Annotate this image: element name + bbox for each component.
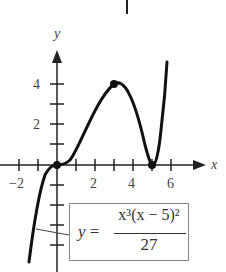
y-tick-label-4: 4 <box>33 77 40 92</box>
x-tick-label-neg2: −2 <box>9 176 24 191</box>
y-tick-label-2: 2 <box>33 117 40 132</box>
y-axis-label: y <box>52 26 61 41</box>
equation-box: y = x³(x − 5)² 27 <box>69 203 189 261</box>
point-local-min <box>148 161 156 169</box>
equation-lhs: y = <box>78 222 99 242</box>
x-tick-label-2: 2 <box>90 176 97 191</box>
equation-leader-line <box>36 229 69 235</box>
x-axis-label: x <box>210 157 218 172</box>
equation-denominator: 27 <box>110 235 188 255</box>
equation-equals: = <box>90 222 100 241</box>
equation-numerator: x³(x − 5)² <box>110 206 188 224</box>
y-axis-arrow-icon <box>52 50 62 63</box>
x-tick-label-4: 4 <box>128 176 135 191</box>
fraction-bar <box>114 233 186 234</box>
point-local-max <box>110 80 118 88</box>
x-axis-arrow-icon <box>193 160 206 170</box>
point-origin <box>53 161 61 169</box>
x-tick-label-6: 6 <box>167 176 174 191</box>
equation-variable: y <box>78 222 86 241</box>
